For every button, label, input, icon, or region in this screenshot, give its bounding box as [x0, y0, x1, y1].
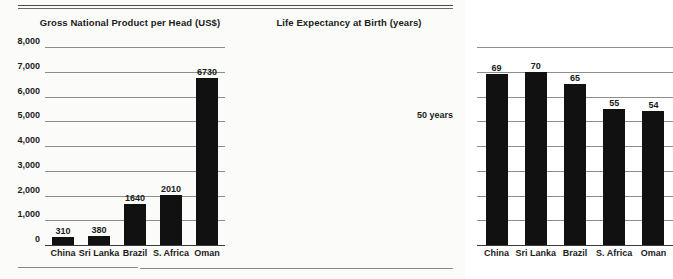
bar-value-label: 70 — [531, 61, 541, 71]
ytick-gnp-1000: 1,000 — [17, 209, 40, 220]
bar-group: 310China — [45, 47, 81, 245]
bar — [196, 78, 218, 245]
bar-value-label: 69 — [492, 63, 502, 73]
gridline-0 — [477, 245, 673, 246]
bar-value-label: 55 — [609, 98, 619, 108]
bar-group: 1640Brazil — [117, 47, 153, 245]
bar-group: 380Sri Lanka — [81, 47, 117, 245]
category-label: Sri Lanka — [79, 248, 120, 258]
bar-value-label: 6730 — [197, 67, 217, 77]
category-label: China — [484, 248, 509, 258]
bar-series: 310China380Sri Lanka1640Brazil2010S. Afr… — [45, 47, 225, 245]
bar-value-label: 380 — [91, 225, 106, 235]
chart-title-gnp: Gross National Product per Head (US$) — [0, 17, 246, 28]
bar — [642, 111, 664, 245]
bar-group: 70Sri Lanka — [516, 47, 555, 245]
bar-value-label: 1640 — [125, 193, 145, 203]
category-label: Brazil — [563, 248, 588, 258]
bar-series: 69China70Sri Lanka65Brazil55S. Africa54O… — [477, 47, 673, 245]
category-label: Brazil — [123, 248, 148, 258]
bar — [52, 237, 74, 245]
category-label: Oman — [194, 248, 220, 258]
ytick-gnp-3000: 3,000 — [17, 160, 40, 171]
bar — [564, 84, 586, 245]
bar — [603, 109, 625, 245]
bar-group: 2010S. Africa — [153, 47, 189, 245]
annotation-life-expectancy-50: 50 years — [417, 110, 453, 121]
chart-gross-national-product: Gross National Product per Head (US$) 01… — [0, 0, 232, 279]
page-rule-bottom-right — [140, 268, 453, 269]
bar-group: 69China — [477, 47, 516, 245]
category-label: S. Africa — [153, 248, 189, 258]
bar — [525, 72, 547, 245]
category-label: China — [50, 248, 75, 258]
bar-group: 6730Oman — [189, 47, 225, 245]
ytick-gnp-0: 0 — [35, 234, 40, 245]
ytick-gnp-8000: 8,000 — [17, 36, 40, 47]
plot-area-gnp: 01,0002,0003,0004,0005,0006,0007,0008,00… — [45, 47, 225, 245]
ytick-gnp-5000: 5,000 — [17, 110, 40, 121]
ytick-gnp-2000: 2,000 — [17, 185, 40, 196]
chart-title-life-expectancy: Life Expectancy at Birth (years) — [233, 17, 479, 28]
ytick-gnp-6000: 6,000 — [17, 86, 40, 97]
gridline-0 — [45, 245, 225, 246]
bar — [88, 236, 110, 245]
bar-value-label: 65 — [570, 73, 580, 83]
bar-group: 55S. Africa — [595, 47, 634, 245]
ytick-gnp-7000: 7,000 — [17, 61, 40, 72]
bar-group: 54Oman — [634, 47, 673, 245]
page-rule-bottom-left — [18, 267, 138, 268]
bar-value-label: 310 — [55, 226, 70, 236]
bar-value-label: 54 — [648, 100, 658, 110]
bar-group: 65Brazil — [555, 47, 594, 245]
category-label: Sri Lanka — [516, 248, 557, 258]
ytick-gnp-4000: 4,000 — [17, 135, 40, 146]
category-label: S. Africa — [596, 248, 632, 258]
category-label: Oman — [641, 248, 667, 258]
bar-value-label: 2010 — [161, 184, 181, 194]
bar — [486, 74, 508, 245]
chart-life-expectancy: Life Expectancy at Birth (years) 50 year… — [233, 0, 465, 279]
bar — [160, 195, 182, 245]
bar — [124, 204, 146, 245]
plot-area-life-expectancy: 50 years69China70Sri Lanka65Brazil55S. A… — [477, 47, 673, 245]
